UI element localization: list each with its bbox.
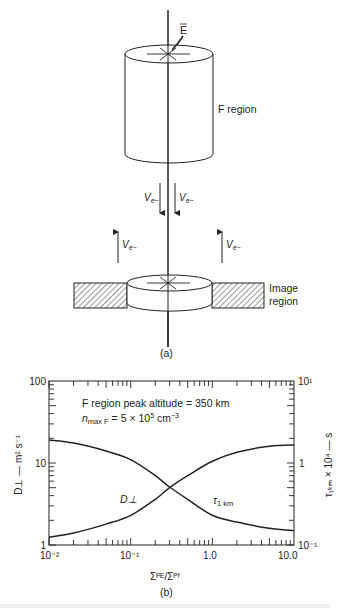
annotation-altitude: F region peak altitude = 350 km — [82, 397, 230, 409]
arrow-up-left: Ve− — [118, 232, 137, 263]
e-field-label: E — [180, 24, 187, 36]
panel-a-label: (a) — [160, 347, 173, 359]
curve-tau-1km — [49, 445, 294, 537]
right-tick-1: 1 — [299, 458, 305, 469]
left-tick-10: 10 — [35, 458, 47, 469]
x-tick-10: 10.0 — [278, 550, 298, 561]
diagram-a: E F region Ve− Ve− Ve− Ve− — [74, 10, 298, 359]
svg-text:Ve−: Ve− — [144, 192, 159, 204]
arrow-down-left: Ve− — [144, 183, 160, 213]
x-tick-0.01: 10⁻² — [40, 550, 60, 561]
right-tick-10: 10¹ — [298, 376, 313, 387]
figure-canvas: E F region Ve− Ve− Ve− Ve− — [0, 0, 349, 608]
left-axis-label: D⊥ — m² s⁻¹ — [13, 435, 24, 495]
arrow-up-right: Ve− — [222, 232, 241, 263]
svg-text:Ve−: Ve− — [226, 239, 241, 251]
annotation-nmax: nmax F = 5 × 105 cm−3 — [82, 412, 179, 426]
chart-b: 100 10 1 10¹ 1 10⁻¹ 10⁻² 10⁻¹ 1.0 10.0 F… — [13, 376, 334, 598]
x-tick-0.1: 10⁻¹ — [120, 550, 140, 561]
f-region-label: F region — [218, 103, 257, 115]
right-tick-0.1: 10⁻¹ — [298, 540, 318, 551]
caption-cutoff — [0, 604, 330, 608]
x-tick-1: 1.0 — [203, 550, 217, 561]
curve-d-perp — [49, 440, 294, 530]
image-region-label: Image — [269, 282, 298, 294]
f-region-cylinder — [125, 45, 213, 163]
left-tick-100: 100 — [29, 376, 46, 387]
arrow-down-right: Ve− — [175, 183, 194, 213]
panel-b-label: (b) — [160, 586, 173, 598]
image-region-hatch-left — [74, 283, 127, 308]
svg-text:Ve−: Ve− — [122, 239, 137, 251]
x-axis-label: Σᴾᴱ/Σᴾᶠ — [150, 571, 181, 582]
curve-label-tau: τ1 km — [213, 494, 233, 508]
svg-text:Ve−: Ve− — [179, 192, 194, 204]
curve-label-d: D⊥ — [120, 493, 137, 505]
image-region-label-2: region — [269, 295, 298, 307]
image-region-disc — [127, 275, 212, 311]
right-axis-label: τ₁ₖₘ × 10⁴ — s — [323, 433, 334, 498]
image-region-hatch-right — [212, 283, 264, 308]
